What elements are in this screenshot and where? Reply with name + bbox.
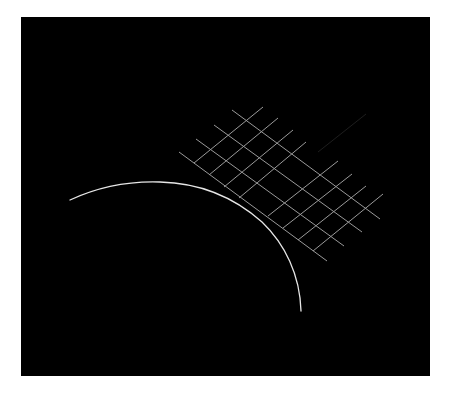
grid-short-line (298, 186, 366, 240)
grid-long-line (214, 125, 362, 232)
curved-arc (70, 182, 301, 311)
grid-short-line (194, 107, 263, 163)
grid-short-line (209, 118, 278, 175)
faint-diagonal-line (318, 114, 366, 152)
grid (179, 107, 383, 261)
grid-short-line (224, 130, 293, 187)
grid-long-line (179, 152, 327, 261)
figure (0, 0, 454, 394)
grid-long-line (232, 110, 380, 219)
grid-short-line (268, 161, 338, 216)
figure-overlay (0, 0, 454, 394)
grid-short-line (313, 194, 383, 251)
